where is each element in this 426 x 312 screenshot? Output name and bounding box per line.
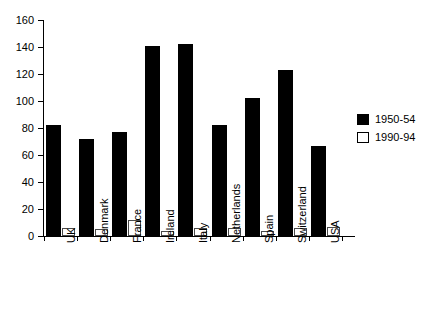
x-tick-label: Netherlands <box>231 184 242 243</box>
x-tick-mark <box>143 237 144 241</box>
x-tick-label: Italy <box>198 223 209 243</box>
legend-item: 1990-94 <box>357 128 415 146</box>
y-tick-label: 140 <box>0 42 34 53</box>
x-tick-label: Ireland <box>165 209 176 243</box>
y-tick-label: 80 <box>0 123 34 134</box>
y-tick-mark <box>38 101 43 102</box>
x-tick-mark <box>276 237 277 241</box>
x-tick-label: France <box>132 209 143 243</box>
x-tick-label: Spain <box>264 215 275 243</box>
x-tick-mark <box>210 237 211 241</box>
bar-series-1950-54 <box>311 146 326 236</box>
hollow-square-icon <box>357 132 369 143</box>
y-tick-mark <box>38 182 43 183</box>
bar-series-1950-54 <box>245 98 260 236</box>
y-tick-label: 120 <box>0 69 34 80</box>
x-tick-label: UK <box>66 228 77 243</box>
y-tick-mark <box>38 236 43 237</box>
filled-square-icon <box>357 114 369 125</box>
x-tick-mark <box>110 237 111 241</box>
x-tick-mark <box>44 237 45 241</box>
legend-item-label: 1990-94 <box>375 132 415 143</box>
x-tick-label: Switzerland <box>297 186 308 243</box>
bar-series-1950-54 <box>145 46 160 236</box>
x-tick-label: Denmark <box>99 198 110 243</box>
legend-item: 1950-54 <box>357 110 415 128</box>
x-tick-mark <box>176 237 177 241</box>
x-tick-label: USA <box>330 220 341 243</box>
y-tick-mark <box>38 128 43 129</box>
y-tick-label: 40 <box>0 177 34 188</box>
y-tick-mark <box>38 74 43 75</box>
y-tick-label: 20 <box>0 204 34 215</box>
bar-series-1950-54 <box>178 44 193 236</box>
y-tick-mark <box>38 155 43 156</box>
x-tick-mark <box>309 237 310 241</box>
y-tick-mark <box>38 209 43 210</box>
bar-series-1950-54 <box>79 139 94 236</box>
bar-series-1950-54 <box>112 132 127 236</box>
y-tick-mark <box>38 20 43 21</box>
chart-legend: 1950-541990-94 <box>357 110 415 146</box>
y-tick-label: 100 <box>0 96 34 107</box>
bar-chart: 020406080100120140160 UKDenmarkFranceIre… <box>0 0 426 312</box>
bar-series-1950-54 <box>212 125 227 236</box>
x-tick-mark <box>342 237 343 241</box>
legend-item-label: 1950-54 <box>375 114 415 125</box>
y-tick-mark <box>38 47 43 48</box>
x-tick-mark <box>243 237 244 241</box>
bar-series-1950-54 <box>278 70 293 236</box>
bar-series-1950-54 <box>46 125 61 236</box>
y-tick-label: 160 <box>0 15 34 26</box>
y-tick-label: 60 <box>0 150 34 161</box>
x-tick-mark <box>77 237 78 241</box>
y-tick-label: 0 <box>0 231 34 242</box>
